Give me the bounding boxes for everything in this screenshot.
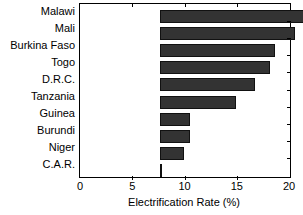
bar-niger [160, 147, 184, 160]
plot-area [79, 3, 291, 178]
y-tick-right-6 [287, 107, 291, 108]
bar-malawi [160, 10, 303, 23]
y-axis-label-togo: Togo [0, 57, 75, 68]
x-tick-label-20: 20 [283, 180, 295, 192]
y-axis-label-burundi: Burundi [0, 125, 75, 136]
bar-tanzania [160, 96, 236, 109]
bar-burkina-faso [160, 44, 275, 57]
y-axis-label-malawi: Malawi [0, 6, 75, 17]
bars-layer [160, 8, 303, 179]
y-tick-right-7 [287, 124, 291, 125]
y-tick-right-4 [287, 72, 291, 73]
x-tick-label-10: 10 [178, 180, 190, 192]
x-tick-top-15 [237, 3, 238, 7]
x-tick-label-15: 15 [231, 180, 243, 192]
x-axis-title: Electrification Rate (%) [79, 196, 289, 209]
y-axis-label-c-a-r: C.A.R. [0, 159, 75, 170]
y-axis-label-guinea: Guinea [0, 108, 75, 119]
y-tick-right-2 [287, 38, 291, 39]
y-axis-label-d-r-c: D.R.C. [0, 74, 75, 85]
y-tick-right-9 [287, 158, 291, 159]
y-axis-category-labels: MalawiMaliBurkina FasoTogoD.R.C.Tanzania… [0, 3, 75, 176]
bar-d-r-c [160, 78, 255, 91]
y-tick-right-5 [287, 90, 291, 91]
y-axis-label-burkina-faso: Burkina Faso [0, 40, 75, 51]
y-tick-right-1 [287, 21, 291, 22]
x-tick-top-10 [185, 3, 186, 7]
y-tick-right-3 [287, 55, 291, 56]
x-axis-tick-labels: 05101520 [0, 180, 303, 194]
x-tick-label-5: 5 [129, 180, 135, 192]
x-tick-label-0: 0 [77, 180, 83, 192]
y-axis-label-tanzania: Tanzania [0, 91, 75, 102]
bar-mali [160, 27, 295, 40]
y-axis-label-niger: Niger [0, 142, 75, 153]
bar-burundi [160, 130, 190, 143]
x-tick-top-5 [132, 3, 133, 7]
y-axis-label-mali: Mali [0, 23, 75, 34]
bar-togo [160, 61, 270, 74]
bar-chart-figure: MalawiMaliBurkina FasoTogoD.R.C.Tanzania… [0, 0, 303, 215]
y-tick-right-8 [287, 141, 291, 142]
bar-guinea [160, 113, 190, 126]
bar-c-a-r [160, 164, 162, 177]
